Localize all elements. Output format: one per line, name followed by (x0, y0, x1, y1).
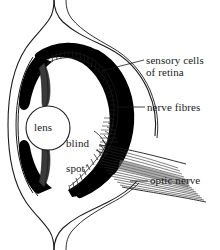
eye-diagram-figure: sensory cells of retina nerve fibres opt… (0, 0, 220, 250)
label-nerve-fibres: nerve fibres (147, 101, 200, 113)
label-blind-spot: blind spot’ (66, 124, 89, 187)
label-sensory-cells-line2: of retina (146, 66, 204, 78)
iris-upper (39, 63, 50, 107)
label-optic-nerve: optic nerve (150, 174, 200, 186)
eye-cross-section-drawing (0, 0, 220, 250)
label-sensory-cells-of-retina: sensory cells of retina (146, 54, 204, 78)
label-sensory-cells-line1: sensory cells (146, 54, 204, 66)
label-blind-spot-line1: blind (66, 137, 89, 150)
label-lens: lens (34, 121, 52, 133)
label-blind-spot-line2: spot’ (66, 162, 89, 175)
